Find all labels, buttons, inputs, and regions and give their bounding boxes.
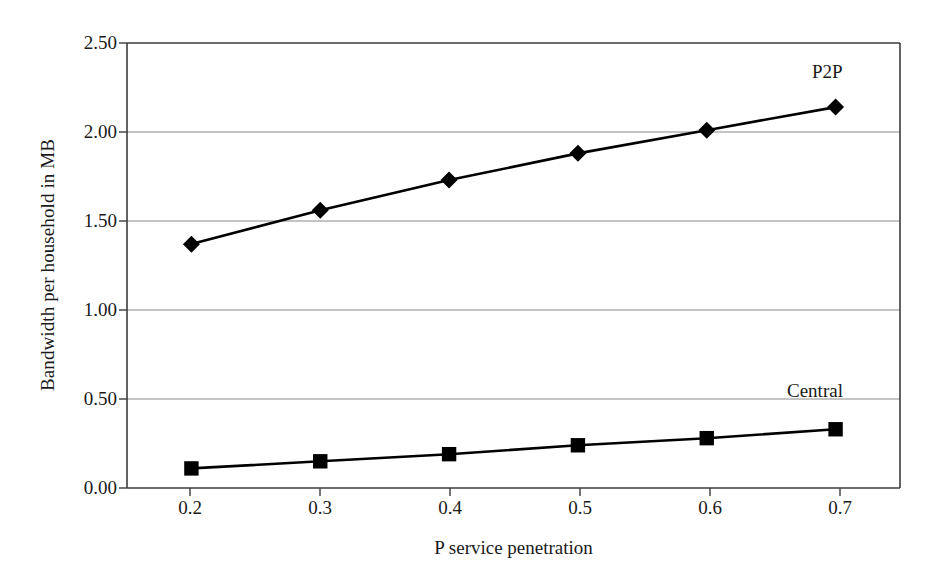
plot-area — [0, 0, 940, 580]
gridlines — [127, 132, 900, 399]
x-tick-label-0-4: 0.4 — [415, 497, 485, 519]
data-point-central-2 — [442, 447, 456, 461]
data-point-p2p-2 — [441, 172, 458, 189]
data-point-p2p-3 — [569, 145, 586, 162]
series-layer — [183, 99, 844, 476]
x-tick-label-0-2: 0.2 — [155, 497, 225, 519]
data-point-p2p-5 — [827, 99, 844, 116]
data-point-central-5 — [828, 422, 842, 436]
data-point-central-4 — [700, 431, 714, 445]
data-point-p2p-0 — [183, 236, 200, 253]
data-point-central-0 — [184, 461, 198, 475]
data-point-central-1 — [313, 454, 327, 468]
x-axis-ticks — [190, 488, 840, 496]
x-tick-label-0-5: 0.5 — [545, 497, 615, 519]
y-axis-ticks — [119, 43, 127, 488]
series-label-p2p: P2P — [812, 62, 843, 82]
series-label-central: Central — [787, 381, 843, 401]
plot-frame — [127, 43, 900, 488]
data-point-p2p-1 — [312, 202, 329, 219]
x-axis-tick-labels: 0.2 0.3 0.4 0.5 0.6 0.7 — [0, 497, 940, 525]
series-p2p — [183, 99, 844, 253]
series-line-p2p — [191, 107, 835, 244]
series-line-central — [191, 429, 835, 468]
data-point-p2p-4 — [698, 122, 715, 139]
data-point-central-3 — [571, 438, 585, 452]
x-axis-title: P service penetration — [127, 537, 900, 559]
x-tick-label-0-7: 0.7 — [805, 497, 875, 519]
series-central — [184, 422, 843, 476]
x-tick-label-0-3: 0.3 — [285, 497, 355, 519]
x-tick-label-0-6: 0.6 — [675, 497, 745, 519]
chart-figure: Bandwidth per household in MB 2.50 2.00 … — [0, 0, 940, 580]
